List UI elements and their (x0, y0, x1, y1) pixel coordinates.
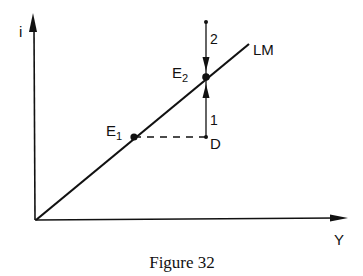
horizontal-axis (35, 215, 348, 222)
point-e2 (202, 73, 210, 81)
e2-label: E2 (172, 64, 188, 84)
point-e1 (130, 133, 137, 140)
d-label: D (210, 135, 221, 152)
down-arrow-icon (203, 57, 210, 71)
axis-arrow-icon (29, 13, 37, 32)
x-axis-label: Y (334, 231, 344, 248)
figure-caption: Figure 32 (149, 253, 215, 272)
lm-curve-label: LM (253, 41, 274, 58)
point-top (204, 20, 208, 24)
e1-label: E1 (106, 122, 122, 142)
y-axis-label: i (19, 23, 22, 40)
arrow-2-label: 2 (210, 31, 218, 47)
lm-diagram: i Y LM E1 E2 D 1 2 Figure 32 (0, 0, 363, 276)
point-d (204, 135, 208, 139)
up-arrow-icon (203, 84, 210, 98)
axis-arrow-icon (330, 215, 348, 222)
lm-curve (36, 44, 249, 220)
arrow-1-label: 1 (210, 112, 218, 128)
vertical-axis (29, 13, 37, 220)
